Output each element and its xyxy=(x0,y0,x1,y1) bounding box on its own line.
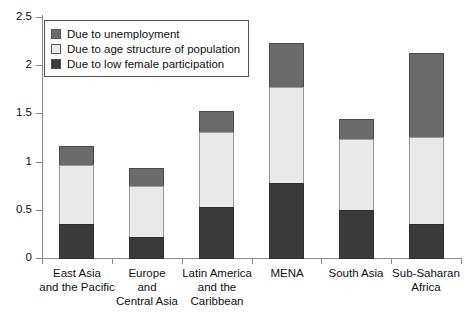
y-axis-tick-label: 0 xyxy=(0,252,32,263)
bar-segment xyxy=(409,224,444,259)
category-label: Sub-SaharanAfrica xyxy=(385,266,467,294)
legend-label-female-participation: Due to low female participation xyxy=(67,58,224,70)
bar-segment xyxy=(199,111,234,133)
bar-segment xyxy=(199,207,234,259)
bar-0 xyxy=(59,146,94,258)
bar-1 xyxy=(129,168,164,258)
bar-segment xyxy=(339,139,374,211)
y-axis-tick-label: 0.5 xyxy=(0,204,32,215)
bar-segment xyxy=(199,132,234,208)
x-axis-tick xyxy=(252,258,253,264)
legend-swatch-age-structure xyxy=(51,44,61,54)
bar-segment xyxy=(129,168,164,186)
x-axis-tick xyxy=(42,258,43,264)
y-axis-tick-label: 2.5 xyxy=(0,11,32,22)
legend-item-unemployment: Due to unemployment xyxy=(51,26,240,41)
bar-segment xyxy=(339,210,374,259)
legend-item-age-structure: Due to age structure of population xyxy=(51,41,240,56)
bar-segment xyxy=(269,183,304,259)
legend-item-female-participation: Due to low female participation xyxy=(51,56,240,71)
chart-legend: Due to unemployment Due to age structure… xyxy=(44,20,249,77)
legend-swatch-female-participation xyxy=(51,59,61,69)
bar-2 xyxy=(199,111,234,258)
y-axis-tick-label: 2 xyxy=(0,59,32,70)
bar-segment xyxy=(59,224,94,259)
bar-segment xyxy=(129,186,164,238)
bar-segment xyxy=(269,43,304,88)
x-axis-tick xyxy=(112,258,113,264)
bar-segment xyxy=(339,119,374,139)
bar-segment xyxy=(269,87,304,183)
bar-segment xyxy=(409,137,444,226)
y-axis-tick-label: 1.5 xyxy=(0,107,32,118)
bar-segment xyxy=(129,237,164,259)
bar-5 xyxy=(409,53,444,258)
x-axis-tick xyxy=(321,258,322,264)
bar-segment xyxy=(59,146,94,165)
x-axis-tick xyxy=(182,258,183,264)
bar-3 xyxy=(269,43,304,258)
legend-swatch-unemployment xyxy=(51,29,61,39)
bar-4 xyxy=(339,119,374,258)
x-axis-tick xyxy=(391,258,392,264)
stacked-bar-chart: 00.511.522.5 East Asiaand the PacificEur… xyxy=(0,0,473,317)
bar-segment xyxy=(409,53,444,138)
legend-label-age-structure: Due to age structure of population xyxy=(67,43,240,55)
y-axis-tick-label: 1 xyxy=(0,156,32,167)
legend-label-unemployment: Due to unemployment xyxy=(67,28,180,40)
bar-segment xyxy=(59,165,94,226)
x-axis-tick xyxy=(461,258,462,264)
